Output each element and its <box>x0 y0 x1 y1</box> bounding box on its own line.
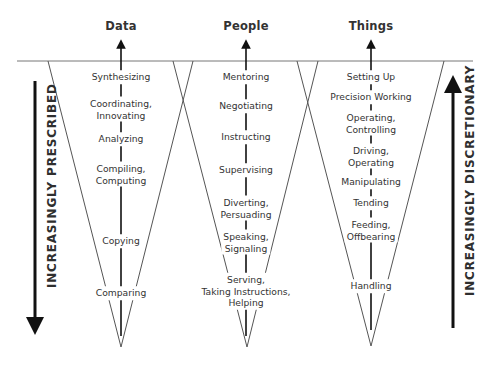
level-label: Setting Up <box>345 70 397 84</box>
column-title-people: People <box>223 19 268 33</box>
level-label: Negotiating <box>217 99 275 113</box>
level-label: Mentoring <box>221 70 272 84</box>
level-label: Synthesizing <box>90 70 153 84</box>
level-label: Compiling, Computing <box>94 162 148 187</box>
level-label: Copying <box>100 234 142 248</box>
level-label: Supervising <box>217 163 275 177</box>
level-label: Operating, Controlling <box>344 111 398 136</box>
level-label: Tending <box>351 196 391 210</box>
level-label: Handling <box>349 279 394 293</box>
level-label: Analyzing <box>97 132 146 146</box>
level-label: Diverting, Persuading <box>219 196 274 221</box>
level-label: Driving, Operating <box>346 144 396 169</box>
level-label: Instructing <box>219 130 272 144</box>
side-label-prescribed: INCREASINGLY PRESCRIBED <box>45 124 59 288</box>
level-label: Serving, Taking Instructions, Helping <box>199 273 292 310</box>
level-label: Manipulating <box>339 175 403 189</box>
column-title-things: Things <box>349 19 393 33</box>
level-label: Speaking, Signaling <box>221 230 270 255</box>
level-label: Feeding, Offbearing <box>345 218 398 243</box>
level-label: Comparing <box>94 286 148 300</box>
column-title-data: Data <box>105 19 136 33</box>
level-label: Precision Working <box>328 90 413 104</box>
diagram-lines <box>0 0 495 371</box>
side-label-discretionary: INCREASINGLY DISCRETIONARY <box>463 116 477 296</box>
level-label: Coordinating, Innovating <box>88 97 154 122</box>
